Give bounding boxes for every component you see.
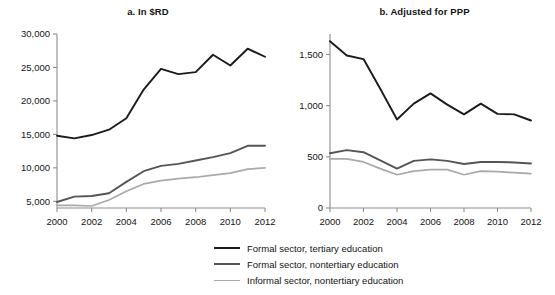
legend-label: Informal sector, nontertiary education	[247, 275, 403, 286]
x-axis-tick-label: 2002	[81, 216, 102, 227]
figure-panels-in-rd-and-ppp: a. In $RD 5,00010,00015,00020,00025,0003…	[0, 0, 555, 295]
series-line	[57, 49, 265, 139]
x-axis-tick-label: 2012	[254, 216, 275, 227]
y-axis-tick-label: 1,000	[299, 100, 323, 111]
y-axis-tick-label: 10,000	[21, 162, 50, 173]
x-axis-tick-label: 2006	[420, 216, 441, 227]
x-axis-tick-label: 2006	[150, 216, 171, 227]
x-axis-tick-label: 2000	[46, 216, 67, 227]
x-axis-tick-label: 2010	[220, 216, 241, 227]
legend-line-swatch-tertiary-icon	[214, 247, 240, 249]
x-axis-tick-label: 2012	[520, 216, 541, 227]
series-line	[57, 168, 265, 206]
legend-entries: Formal sector, tertiary education Formal…	[214, 240, 403, 288]
chart-legend: Formal sector, tertiary education Formal…	[0, 238, 555, 295]
x-axis-tick-label: 2000	[319, 216, 340, 227]
legend-label: Formal sector, nontertiary education	[247, 259, 399, 270]
x-axis-tick-label: 2004	[116, 216, 137, 227]
y-axis-tick-label: 20,000	[21, 95, 50, 106]
x-axis-tick-label: 2008	[185, 216, 206, 227]
legend-item: Formal sector, nontertiary education	[214, 256, 403, 272]
x-axis-tick-label: 2002	[353, 216, 374, 227]
y-axis-tick-label: 30,000	[21, 28, 50, 39]
panel-b-plot: 05001,0001,50020002002200420062008201020…	[278, 0, 555, 236]
panel-a-plot: 5,00010,00015,00020,00025,00030,00020002…	[0, 0, 278, 236]
x-axis-tick-label: 2004	[386, 216, 407, 227]
y-axis-tick-label: 25,000	[21, 62, 50, 73]
series-line	[330, 150, 531, 168]
y-axis-tick-label: 5,000	[26, 196, 50, 207]
legend-line-swatch-informal-nontertiary-icon	[214, 280, 240, 281]
legend-item: Formal sector, tertiary education	[214, 240, 403, 256]
y-axis-tick-label: 1,500	[299, 49, 323, 60]
chart-panel-a: a. In $RD 5,00010,00015,00020,00025,0003…	[0, 0, 278, 236]
x-axis-tick-label: 2010	[487, 216, 508, 227]
series-line	[330, 41, 531, 120]
series-line	[57, 146, 265, 202]
y-axis-tick-label: 500	[307, 151, 323, 162]
legend-label: Formal sector, tertiary education	[247, 243, 383, 254]
legend-item: Informal sector, nontertiary education	[214, 272, 403, 288]
chart-panel-b: b. Adjusted for PPP 05001,0001,500200020…	[278, 0, 555, 236]
legend-line-swatch-formal-nontertiary-icon	[214, 263, 240, 265]
y-axis-tick-label: 15,000	[21, 129, 50, 140]
y-axis-tick-label: 0	[318, 202, 323, 213]
x-axis-tick-label: 2008	[453, 216, 474, 227]
chart-panel-container: a. In $RD 5,00010,00015,00020,00025,0003…	[0, 0, 555, 236]
